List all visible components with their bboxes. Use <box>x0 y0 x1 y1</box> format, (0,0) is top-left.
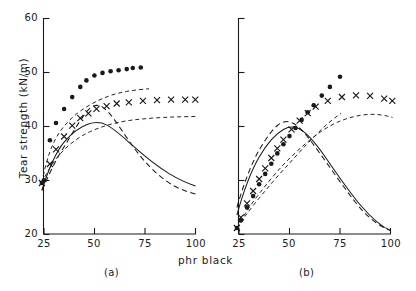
panel-b-xtick-label-50: 50 <box>275 238 303 249</box>
panel-b-xtick-label-100: 100 <box>375 238 407 249</box>
panel-b-caption: (b) <box>299 267 314 278</box>
panel-b-xtick-label-75: 75 <box>326 238 354 249</box>
panel-b-axes <box>239 18 392 235</box>
panel-b-curves <box>237 114 393 231</box>
panel-b-cross-markers <box>234 92 395 231</box>
panel-b-xtick-label-25: 25 <box>225 238 253 249</box>
panel-b-dashed-curve <box>237 122 391 231</box>
x-axis-title: phr black <box>178 254 233 266</box>
panel-b-circle-markers <box>235 74 343 230</box>
figure-tear-strength-vs-phr-black: Tear strength (kN/m) <box>0 0 416 291</box>
panel-b-cross-series-line <box>237 114 393 228</box>
